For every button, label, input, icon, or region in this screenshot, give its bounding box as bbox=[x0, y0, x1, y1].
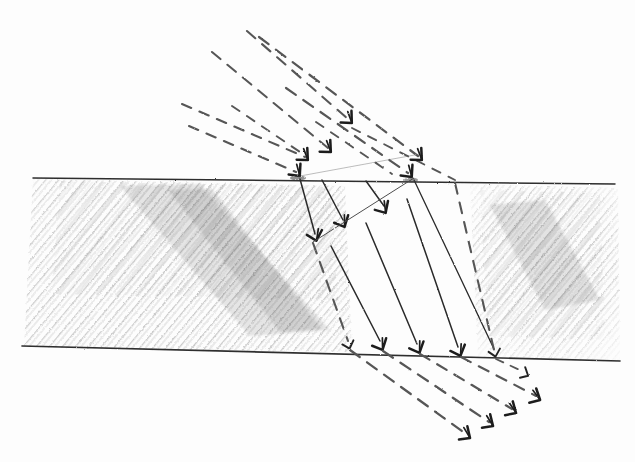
arrowhead-bottom-2 bbox=[371, 336, 390, 353]
incident-ray-4 bbox=[189, 126, 296, 172]
arrowhead-exit-5 bbox=[519, 367, 531, 381]
incident-arrowheads bbox=[287, 109, 428, 181]
exit-ray-5 bbox=[496, 359, 524, 372]
arrowhead-bottom-3 bbox=[408, 340, 427, 356]
incident-ray-1 bbox=[247, 31, 348, 119]
arrowhead-exit-4 bbox=[527, 388, 545, 407]
incident-rays bbox=[182, 31, 455, 180]
refracted-long-2 bbox=[366, 223, 417, 344]
exit-ray-1 bbox=[350, 350, 466, 434]
exit-arrowheads bbox=[456, 367, 544, 444]
refracted-long-3 bbox=[407, 199, 458, 347]
incident-ray-2 bbox=[212, 52, 328, 148]
refraction-diagram bbox=[0, 0, 635, 462]
incident-wavefront-guide bbox=[300, 154, 420, 176]
sketch-canvas: Refraction of a light beam through a tra… bbox=[0, 0, 635, 462]
exit-rays bbox=[350, 350, 536, 434]
incident-ray-9 bbox=[352, 128, 455, 180]
refracted-long-rays bbox=[331, 180, 494, 349]
exit-ray-3 bbox=[420, 354, 512, 409]
